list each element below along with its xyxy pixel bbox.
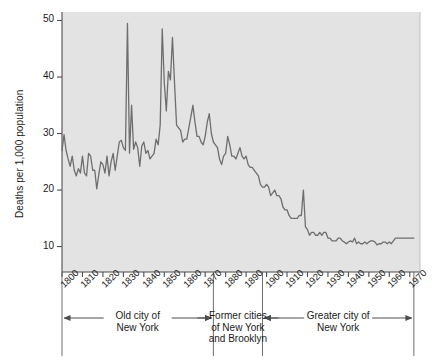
period-label: Former cities of New York and Brooklyn bbox=[190, 310, 286, 345]
y-axis-tick-marks bbox=[57, 20, 62, 246]
period-label: Greater city of New York bbox=[290, 310, 386, 333]
y-tick-label: 20 bbox=[32, 183, 54, 194]
period-label: Old city of New York bbox=[90, 310, 186, 333]
chart-figure: Deaths per 1,000 population 1020304050 1… bbox=[0, 0, 435, 363]
y-tick-label: 50 bbox=[32, 13, 54, 24]
y-tick-label: 30 bbox=[32, 127, 54, 138]
line-chart-canvas bbox=[0, 0, 435, 363]
y-axis-title: Deaths per 1,000 population bbox=[14, 90, 25, 218]
plot-background bbox=[62, 12, 420, 272]
y-tick-label: 40 bbox=[32, 70, 54, 81]
y-tick-label: 10 bbox=[32, 240, 54, 251]
